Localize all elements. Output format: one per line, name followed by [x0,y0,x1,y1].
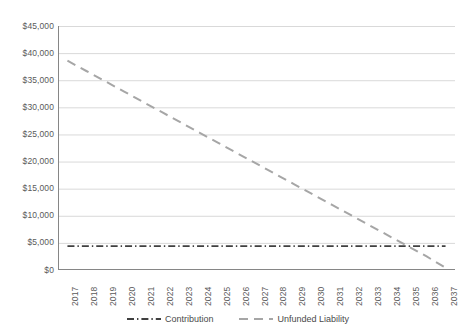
x-axis-tick-label: 2034 [393,287,402,306]
chart-container: $0$5,000$10,000$15,000$20,000$25,000$30,… [0,0,476,335]
x-axis-tick-label: 2022 [166,287,175,306]
x-axis-tick-label: 2020 [128,287,137,306]
x-axis-tick-label: 2023 [185,287,194,306]
x-axis-tick-label: 2030 [317,287,326,306]
legend-item-unfunded-liability[interactable]: Unfunded Liability [239,314,349,324]
x-axis-tick-label: 2024 [204,287,213,306]
x-axis-tick-label: 2018 [90,287,99,306]
x-axis-tick-label: 2017 [71,287,80,306]
plot-area [58,26,455,270]
y-axis-tick-label: $20,000 [0,157,54,166]
y-axis-tick-label: $40,000 [0,49,54,58]
chart-legend: Contribution Unfunded Liability [0,311,476,327]
series-lines [67,61,445,268]
legend-label-unfunded-liability: Unfunded Liability [277,314,349,324]
x-axis-tick-label: 2019 [109,287,118,306]
x-axis-tick-label: 2027 [261,287,270,306]
x-axis-tick-label: 2026 [242,287,251,306]
x-axis-tick-label: 2036 [431,287,440,306]
x-axis-tick-label: 2037 [450,287,459,306]
x-axis-tick-label: 2021 [147,287,156,306]
legend-label-contribution: Contribution [165,314,214,324]
dash-dot-line-swatch [127,315,161,323]
x-axis-tick-label: 2031 [336,287,345,306]
y-axis-tick-label: $45,000 [0,22,54,31]
plot-svg [58,26,455,270]
x-axis-tick-label: 2032 [355,287,364,306]
y-axis-tick-label: $5,000 [0,238,54,247]
y-axis-labels: $0$5,000$10,000$15,000$20,000$25,000$30,… [0,0,54,335]
legend-item-contribution[interactable]: Contribution [127,314,214,324]
x-axis-tick-label: 2033 [374,287,383,306]
axis-lines [58,26,455,270]
x-axis-tick-label: 2029 [298,287,307,306]
y-axis-tick-label: $30,000 [0,103,54,112]
x-axis-labels: 2017201820192020202120222023202420252026… [58,274,455,314]
x-axis-tick-label: 2035 [412,287,421,306]
y-axis-tick-label: $15,000 [0,184,54,193]
y-axis-tick-label: $25,000 [0,130,54,139]
y-axis-tick-label: $35,000 [0,76,54,85]
gridlines [58,27,455,244]
dashed-line-swatch [239,315,273,323]
x-axis-tick-label: 2028 [279,287,288,306]
x-axis-tick-label: 2025 [223,287,232,306]
y-axis-tick-label: $0 [0,266,54,275]
y-axis-tick-label: $10,000 [0,211,54,220]
series-line-unfunded-liability [67,61,445,268]
